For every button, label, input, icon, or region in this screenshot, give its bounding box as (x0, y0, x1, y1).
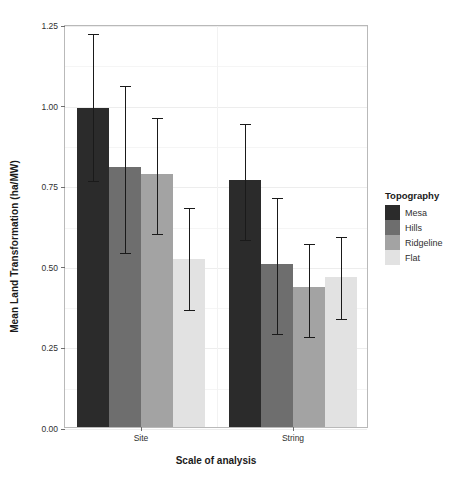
gridline-major (65, 26, 367, 27)
legend: Topography MesaHillsRidgelineFlat (385, 190, 455, 265)
error-cap-upper (120, 86, 131, 87)
y-axis-tick-label: 0.75 (41, 182, 61, 192)
y-axis-title-text: Mean Land Transformation (ha/MW) (9, 160, 20, 333)
error-bar-flat-string (341, 237, 342, 319)
error-cap-lower (240, 240, 251, 241)
error-bar-flat-site (189, 208, 190, 310)
legend-items: MesaHillsRidgelineFlat (385, 205, 455, 265)
error-cap-upper (184, 208, 195, 209)
plot-area: 0.000.250.500.751.001.25SiteString (65, 26, 367, 427)
plot-panel: 0.000.250.500.751.001.25SiteString (64, 25, 368, 428)
error-cap-upper (272, 198, 283, 199)
group-separator (217, 26, 218, 427)
gridline-minor (65, 66, 367, 67)
legend-swatch-mesa (385, 205, 400, 220)
legend-item-mesa[interactable]: Mesa (385, 205, 455, 220)
error-bar-hills-site (125, 86, 126, 254)
error-cap-lower (120, 253, 131, 254)
y-axis-tick-label: 0.00 (41, 424, 61, 434)
y-axis-tick: 1.00 (41, 102, 65, 112)
error-bar-mesa-string (245, 124, 246, 240)
gridline-major (65, 107, 367, 108)
legend-item-flat[interactable]: Flat (385, 250, 455, 265)
error-cap-lower (184, 310, 195, 311)
error-bar-ridgeline-string (309, 244, 310, 337)
x-axis-tick-label-site: Site (134, 433, 149, 443)
error-bar-mesa-site (93, 34, 94, 181)
error-cap-lower (272, 334, 283, 335)
y-axis-title: Mean Land Transformation (ha/MW) (4, 0, 24, 493)
error-cap-lower (88, 181, 99, 182)
legend-item-ridgeline[interactable]: Ridgeline (385, 235, 455, 250)
error-cap-lower (152, 234, 163, 235)
legend-item-hills[interactable]: Hills (385, 220, 455, 235)
gridline-minor (65, 147, 367, 148)
y-axis-tick-mark (61, 26, 65, 27)
error-cap-upper (240, 124, 251, 125)
y-axis-tick-mark (61, 267, 65, 268)
error-cap-upper (152, 118, 163, 119)
x-axis-title: Scale of analysis (64, 455, 368, 466)
error-cap-lower (304, 337, 315, 338)
y-axis-tick: 0.00 (41, 424, 65, 434)
legend-swatch-hills (385, 220, 400, 235)
legend-swatch-flat (385, 250, 400, 265)
error-cap-lower (336, 319, 347, 320)
chart-figure: Mean Land Transformation (ha/MW) 0.000.2… (0, 0, 456, 493)
gridline-major (65, 429, 367, 430)
x-axis-tick-label-string: String (282, 433, 304, 443)
y-axis-tick-label: 0.25 (41, 343, 61, 353)
y-axis-tick: 0.50 (41, 263, 65, 273)
legend-label: Hills (400, 223, 422, 233)
error-cap-upper (88, 34, 99, 35)
error-cap-upper (304, 244, 315, 245)
error-bar-hills-string (277, 198, 278, 333)
y-axis-tick: 0.75 (41, 182, 65, 192)
legend-label: Flat (400, 253, 420, 263)
y-axis-tick-label: 1.25 (41, 21, 61, 31)
y-axis-tick-mark (61, 187, 65, 188)
legend-swatch-ridgeline (385, 235, 400, 250)
y-axis-tick: 0.25 (41, 343, 65, 353)
x-axis-tick-mark (293, 427, 294, 431)
error-cap-upper (336, 237, 347, 238)
y-axis-tick-label: 1.00 (41, 102, 61, 112)
legend-title: Topography (385, 190, 455, 201)
y-axis-tick-mark (61, 348, 65, 349)
legend-label: Ridgeline (400, 238, 443, 248)
error-bar-ridgeline-site (157, 118, 158, 234)
x-axis-tick-mark (141, 427, 142, 431)
legend-label: Mesa (400, 208, 427, 218)
y-axis-tick-label: 0.50 (41, 263, 61, 273)
y-axis-tick-mark (61, 429, 65, 430)
y-axis-tick: 1.25 (41, 21, 65, 31)
y-axis-tick-mark (61, 106, 65, 107)
